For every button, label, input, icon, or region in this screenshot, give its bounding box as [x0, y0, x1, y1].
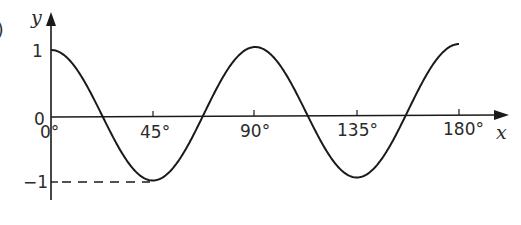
x-tick-180: 180° [443, 119, 484, 139]
y-tick-minus-1: −1 [23, 172, 48, 192]
x-tick-135: 135° [337, 120, 378, 140]
y-axis-label: y [30, 6, 42, 28]
x-axis [51, 115, 498, 117]
cosine-graph: ) y x 1 0 −1 0° 45° 90° 135° 180° [0, 0, 521, 225]
y-axis-arrow-icon [46, 12, 56, 26]
cosine-curve [51, 44, 459, 181]
y-tick-1: 1 [32, 41, 43, 61]
x-tick-45: 45° [140, 122, 170, 142]
x-axis-arrow-icon [494, 110, 509, 120]
x-tick-0: 0° [40, 122, 59, 142]
x-axis-label: x [496, 121, 507, 143]
part-label: ) [0, 20, 4, 40]
x-tick-90: 90° [240, 121, 270, 141]
